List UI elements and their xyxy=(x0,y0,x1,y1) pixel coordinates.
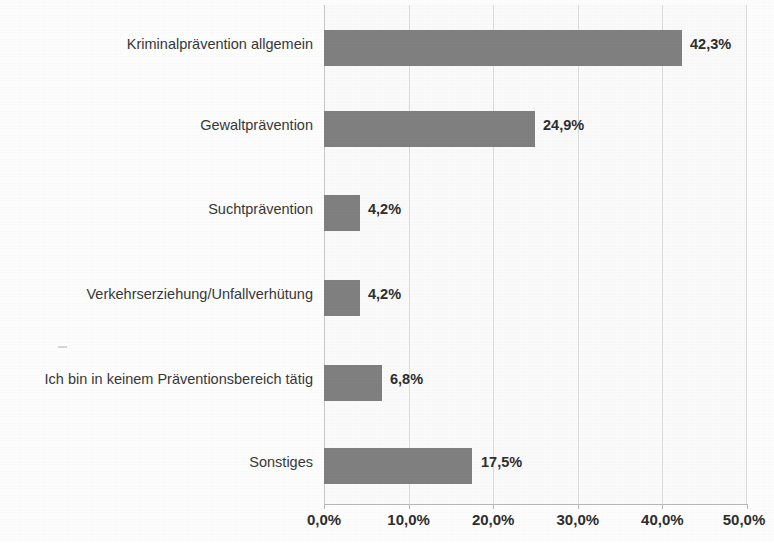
bar-kriminalpraevention-allgemein xyxy=(324,30,682,66)
value-label-suchtpraevention: 4,2% xyxy=(368,202,401,217)
xtick-50 xyxy=(747,504,748,509)
scan-artifact xyxy=(58,346,67,348)
category-label-suchtpraevention: Suchtprävention xyxy=(208,202,313,217)
value-label-verkehrserziehung-unfallverhuetung: 4,2% xyxy=(368,287,401,302)
category-label-sonstiges: Sonstiges xyxy=(249,455,313,470)
category-label-verkehrserziehung-unfallverhuetung: Verkehrserziehung/Unfallverhütung xyxy=(87,287,314,302)
xtick-20 xyxy=(493,504,494,509)
value-label-gewaltpraevention: 24,9% xyxy=(543,118,584,133)
category-label-kein-praeventionsbereich: Ich bin in keinem Präventionsbereich tät… xyxy=(45,372,313,387)
category-label-kriminalpraevention-allgemein: Kriminalprävention allgemein xyxy=(127,37,313,52)
x-axis-line xyxy=(324,504,748,505)
gridline-0 xyxy=(324,5,325,504)
plot-area xyxy=(324,5,747,504)
xtick-label-50: 50,0% xyxy=(723,512,766,527)
bar-sonstiges xyxy=(324,448,472,484)
xtick-label-40: 40,0% xyxy=(641,512,684,527)
bar-suchtpraevention xyxy=(324,195,360,231)
gridline-40 xyxy=(662,5,663,504)
xtick-40 xyxy=(662,504,663,509)
category-label-gewaltpraevention: Gewaltprävention xyxy=(200,118,313,133)
gridline-30 xyxy=(578,5,579,504)
bar-kein-praeventionsbereich xyxy=(324,365,382,401)
xtick-label-10: 10,0% xyxy=(387,512,430,527)
xtick-label-0: 0,0% xyxy=(307,512,341,527)
bar-chart: Kriminalprävention allgemein Gewaltpräve… xyxy=(0,0,774,543)
xtick-10 xyxy=(409,504,410,509)
gridline-20 xyxy=(493,5,494,504)
gridline-50 xyxy=(746,5,747,504)
value-label-kein-praeventionsbereich: 6,8% xyxy=(390,372,423,387)
gridline-10 xyxy=(409,5,410,504)
xtick-30 xyxy=(578,504,579,509)
bar-gewaltpraevention xyxy=(324,111,535,147)
xtick-label-20: 20,0% xyxy=(472,512,515,527)
bar-verkehrserziehung-unfallverhuetung xyxy=(324,280,360,316)
xtick-0 xyxy=(324,504,325,509)
xtick-label-30: 30,0% xyxy=(557,512,600,527)
value-label-kriminalpraevention-allgemein: 42,3% xyxy=(690,37,731,52)
value-label-sonstiges: 17,5% xyxy=(481,455,522,470)
